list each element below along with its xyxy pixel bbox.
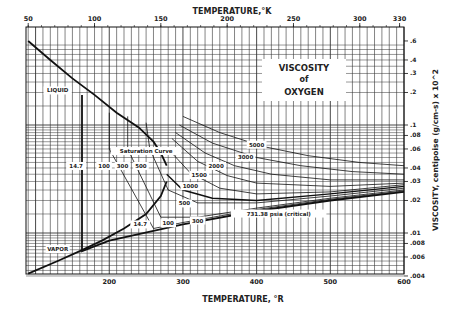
x-tick-label: 500 <box>324 278 338 286</box>
annotation-label: 300 <box>117 163 129 169</box>
y-tick-label: .02 <box>410 196 421 203</box>
annotation-label: LIQUID <box>47 87 69 93</box>
x-tick-label: 300 <box>176 278 190 286</box>
annotation-label: 2000 <box>208 163 223 169</box>
annotation-label: 3000 <box>238 154 253 160</box>
bottom-axis-label: TEMPERATURE, °R <box>202 295 284 304</box>
annotation-label: 100 <box>162 220 174 226</box>
right-axis-label: VISCOSITY, centipoise (g/cm-s) x 10^2 <box>431 69 440 231</box>
annotation-label: 500 <box>135 163 147 169</box>
chart-title-line-2: of <box>300 75 309 84</box>
y-tick-label: .2 <box>410 88 416 95</box>
chart-title-line-1: VISCOSITY <box>279 63 330 73</box>
y-tick-label: .08 <box>410 131 421 138</box>
annotation-label: 500 <box>179 200 191 206</box>
annotation-label: 1000 <box>183 183 198 189</box>
y-tick-label: .008 <box>410 239 425 246</box>
y-tick-label: .006 <box>410 253 425 260</box>
x2-tick-label: 300 <box>353 15 367 23</box>
x2-tick-label: 50 <box>24 15 34 23</box>
x-tick-label: 400 <box>250 278 264 286</box>
top-axis-label: TEMPERATURE,°K <box>193 7 273 16</box>
annotation-label: Saturation Curve <box>120 148 173 154</box>
x-tick-label: 600 <box>397 278 411 286</box>
x2-tick-label: 250 <box>287 15 301 23</box>
y-tick-label: .01 <box>410 229 421 236</box>
viscosity-chart: VISCOSITY of OXYGEN 20030040050060050100… <box>0 0 453 316</box>
annotation-label: 1500 <box>192 172 207 178</box>
annotation-label: VAPOR <box>47 246 69 252</box>
y-tick-label: .04 <box>410 164 421 171</box>
chart-title-line-3: OXYGEN <box>284 87 324 97</box>
annotation-label: 14.7 <box>69 163 83 169</box>
x2-tick-label: 100 <box>88 15 102 23</box>
annotation-label: 100 <box>98 163 110 169</box>
x-tick-label: 200 <box>102 278 116 286</box>
chart-annotations: LIQUIDVAPORSaturation Curve14.7100300500… <box>44 86 327 253</box>
y-tick-label: .1 <box>410 121 416 128</box>
y-tick-label: .06 <box>410 145 421 152</box>
y-tick-label: .3 <box>410 69 416 76</box>
y-tick-label: .004 <box>410 272 425 279</box>
y-tick-label: .4 <box>410 56 416 63</box>
y-tick-label: .6 <box>410 37 416 44</box>
y-tick-label: .03 <box>410 177 421 184</box>
series-14-7-psia <box>82 95 404 251</box>
chart-axes: 20030040050060050100150200250300330.004.… <box>24 15 425 286</box>
chart-title-box: VISCOSITY of OXYGEN <box>262 59 346 101</box>
annotation-label: 14.7 <box>133 221 147 227</box>
x2-tick-label: 200 <box>220 15 234 23</box>
x2-tick-label: 330 <box>393 15 407 23</box>
annotation-label: 5000 <box>249 142 264 148</box>
annotation-label: 731.38 psia (critical) <box>247 211 312 218</box>
x2-tick-label: 150 <box>154 15 168 23</box>
annotation-label: 300 <box>192 218 204 224</box>
